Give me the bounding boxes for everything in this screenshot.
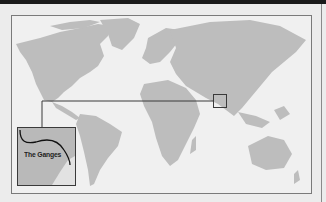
- world-map: [0, 0, 326, 202]
- inset-label: The Ganges: [24, 150, 61, 159]
- australia: [248, 136, 292, 170]
- south-america: [76, 114, 122, 186]
- north-america: [16, 24, 112, 102]
